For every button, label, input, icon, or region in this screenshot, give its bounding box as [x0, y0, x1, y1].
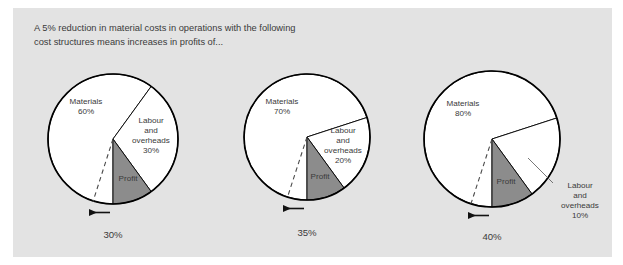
- pie-3-caption: 40%: [482, 231, 502, 242]
- pie-chart-2: Materials 70% Labour and overheads 20% P…: [244, 74, 370, 238]
- pie-2-materials-value: 70%: [274, 107, 290, 116]
- pie-2-profit-label: Profit: [311, 172, 331, 181]
- pie-3-labour-label-line-1: Labour: [567, 181, 593, 190]
- pie-3-labour-value: 10%: [572, 211, 588, 220]
- pie-3-labour-label-line-2: and: [573, 191, 587, 200]
- pie-chart-3: Materials 80% Labour and overheads 10% P…: [424, 71, 599, 242]
- pie-2-labour-value: 20%: [335, 156, 351, 165]
- pie-1-materials-label: Materials: [70, 97, 103, 106]
- pie-1-caption: 30%: [103, 229, 123, 240]
- pie-1-labour-label-line-3: overheads: [132, 136, 170, 145]
- figure-title-line-1: A 5% reduction in material costs in oper…: [34, 23, 295, 33]
- pie-chart-1: Materials 60% Labour and overheads 30% P…: [48, 74, 178, 240]
- pie-2-caption: 35%: [297, 227, 317, 238]
- pie-2-labour-label-line-1: Labour: [330, 126, 356, 135]
- pie-3-labour-label-line-3: overheads: [561, 201, 599, 210]
- pie-3-materials-value: 80%: [455, 109, 471, 118]
- pie-2-labour-label-line-2: and: [336, 136, 350, 145]
- pie-3-profit-label: Profit: [497, 177, 517, 186]
- pie-3-materials-label: Materials: [447, 99, 480, 108]
- pie-1-labour-value: 30%: [143, 146, 159, 155]
- pie-1-profit-label: Profit: [119, 174, 139, 183]
- pie-1-materials-value: 60%: [78, 107, 94, 116]
- pie-2-materials-label: Materials: [266, 97, 299, 106]
- figure-title-line-2: cost structures means increases in profi…: [34, 37, 223, 47]
- pie-chart-figure: A 5% reduction in material costs in oper…: [0, 0, 623, 265]
- pie-1-labour-label-line-1: Labour: [138, 116, 164, 125]
- pie-1-labour-label-line-2: and: [144, 126, 158, 135]
- pie-2-labour-label-line-3: overheads: [324, 146, 362, 155]
